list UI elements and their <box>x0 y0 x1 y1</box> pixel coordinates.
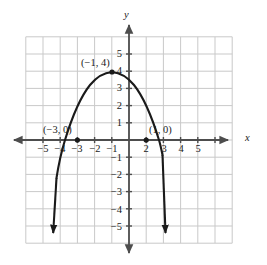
x-intercept-right-point <box>144 137 149 142</box>
y-tick-label--1: −1 <box>102 153 122 164</box>
x-tick-label--3: −3 <box>67 144 87 155</box>
vertex-label: (−1, 4) <box>81 58 110 69</box>
x-tick-label-2: 2 <box>136 144 156 155</box>
y-axis-label: y <box>124 10 129 21</box>
x-axis-label: x <box>245 133 250 144</box>
y-tick-label--5: −5 <box>102 222 122 233</box>
y-tick-label--4: −4 <box>102 205 122 216</box>
y-tick-label-3: 3 <box>104 83 122 94</box>
y-tick-label--2: −2 <box>102 170 122 181</box>
graph-figure: y x −5 −4 −3 −2 −1 2 3 4 5 5 4 3 2 1 −1 … <box>0 0 267 265</box>
parabola-plot <box>0 0 267 265</box>
x-intercept-right-label: (1, 0) <box>149 125 172 136</box>
y-tick-label--3: −3 <box>102 187 122 198</box>
y-tick-label-2: 2 <box>104 101 122 112</box>
x-intercept-left-point <box>75 137 80 142</box>
parabola-arrow-left <box>53 178 56 233</box>
x-intercept-left-label: (−3, 0) <box>43 125 72 136</box>
x-tick-label-5: 5 <box>188 144 208 155</box>
y-tick-label-1: 1 <box>104 118 122 129</box>
